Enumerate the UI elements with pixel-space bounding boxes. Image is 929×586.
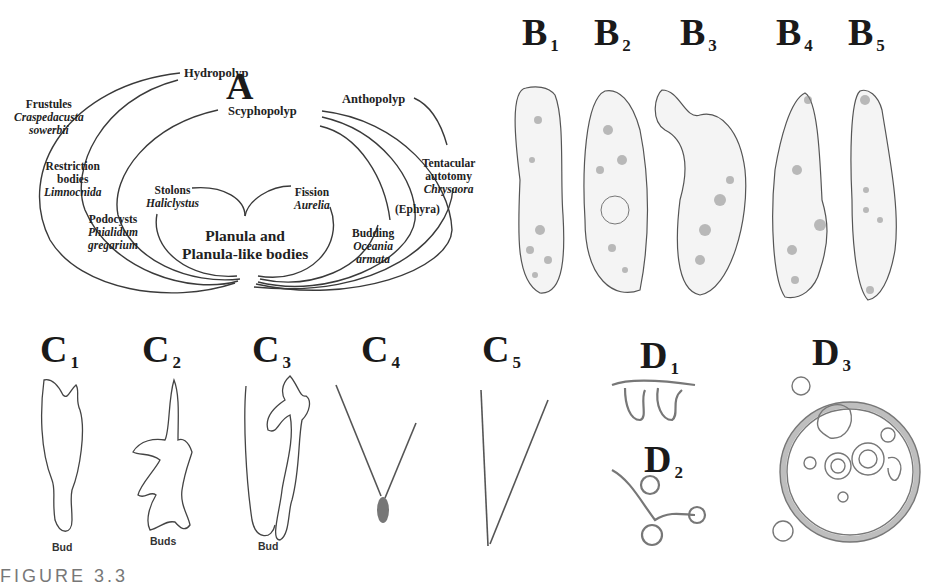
panel-label-b4: B4 <box>776 13 813 54</box>
label-hydropolyp: Hydropolyp <box>184 66 248 80</box>
panel-label-b5: B5 <box>848 13 885 54</box>
node-ephyra: (Ephyra) <box>395 203 440 216</box>
node-stolons: Stolons Haliclystus <box>146 184 199 210</box>
node-budding: Budding Oceania armata <box>352 227 394 267</box>
panel-label-b1: B1 <box>522 13 559 54</box>
node-restriction-bodies: Restriction bodies Limnocnida <box>44 160 102 200</box>
label-scyphopolyp: Scyphopolyp <box>228 104 297 118</box>
panel-label-c3: C3 <box>252 330 291 371</box>
panel-label-d3: D3 <box>812 333 851 374</box>
center-planula: Planula and Planula-like bodies <box>182 227 308 263</box>
panel-label-c5: C5 <box>482 330 521 371</box>
panel-label-c2: C2 <box>142 330 181 371</box>
panel-label-d1: D1 <box>640 336 679 377</box>
node-frustules: Frustules Craspedacusta sowerbii <box>14 98 84 138</box>
label-anthopolyp: Anthopolyp <box>342 92 405 106</box>
node-podocysts: Podocysts Phialidum gregarium <box>88 213 138 253</box>
panel-label-d2: D2 <box>644 440 683 481</box>
node-fission: Fission Aurelia <box>294 186 330 212</box>
node-tentacular-autotomy: Tentacular autotomy Chrysaora <box>422 157 475 197</box>
caption-c3-bud: Bud <box>258 540 278 552</box>
panel-label-c4: C4 <box>361 330 400 371</box>
caption-c2-buds: Buds <box>150 535 176 547</box>
panel-label-c1: C1 <box>40 330 79 371</box>
caption-c1-bud: Bud <box>52 541 72 553</box>
panel-label-b2: B2 <box>594 13 631 54</box>
figure-caption: FIGURE 3.3 <box>0 566 128 586</box>
panel-label-b3: B3 <box>680 13 717 54</box>
